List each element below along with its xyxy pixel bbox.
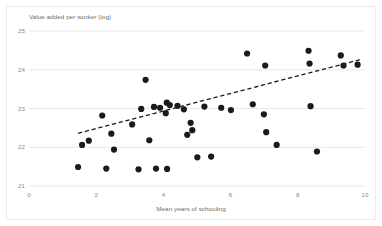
data-point bbox=[157, 105, 163, 111]
x-tick-label: 8 bbox=[290, 191, 306, 198]
x-tick-label: 2 bbox=[88, 191, 104, 198]
data-point bbox=[146, 137, 152, 143]
x-tick-label: 10 bbox=[357, 191, 373, 198]
data-point bbox=[174, 103, 180, 109]
data-point bbox=[138, 106, 144, 112]
data-point bbox=[340, 62, 346, 68]
data-point bbox=[184, 132, 190, 138]
y-tick-label: 24 bbox=[11, 66, 25, 73]
scatter-plot-canvas bbox=[0, 0, 382, 226]
data-point bbox=[129, 121, 135, 127]
data-point bbox=[189, 127, 195, 133]
data-point bbox=[262, 62, 268, 68]
data-point bbox=[79, 142, 85, 148]
data-point bbox=[142, 77, 148, 83]
data-point bbox=[305, 48, 311, 54]
data-point bbox=[355, 62, 361, 68]
data-point bbox=[99, 112, 105, 118]
x-tick-label: 4 bbox=[155, 191, 171, 198]
data-point bbox=[181, 106, 187, 112]
data-point bbox=[261, 111, 267, 117]
data-point bbox=[153, 165, 159, 171]
trend-line bbox=[78, 60, 360, 134]
data-point bbox=[314, 148, 320, 154]
data-point bbox=[167, 102, 173, 108]
data-point bbox=[250, 101, 256, 107]
y-tick-label: 25 bbox=[11, 27, 25, 34]
x-tick-label: 6 bbox=[223, 191, 239, 198]
data-point bbox=[263, 129, 269, 135]
data-point bbox=[244, 50, 250, 56]
y-tick-label: 22 bbox=[11, 143, 25, 150]
data-point bbox=[228, 107, 234, 113]
data-point bbox=[103, 165, 109, 171]
x-tick-label: 0 bbox=[21, 191, 37, 198]
data-point bbox=[208, 153, 214, 159]
data-point bbox=[188, 120, 194, 126]
data-point bbox=[111, 146, 117, 152]
data-point bbox=[338, 52, 344, 58]
data-point bbox=[163, 110, 169, 116]
data-point bbox=[307, 103, 313, 109]
data-point bbox=[201, 103, 207, 109]
data-point bbox=[135, 166, 141, 172]
data-point bbox=[306, 60, 312, 66]
data-point bbox=[194, 154, 200, 160]
data-point bbox=[274, 142, 280, 148]
data-point bbox=[86, 138, 92, 144]
data-point bbox=[75, 164, 81, 170]
x-axis-title: Mean years of schooling bbox=[0, 205, 382, 212]
data-point bbox=[108, 131, 114, 137]
chart-figure: Value added per worker (log) 2122232425 … bbox=[0, 0, 382, 226]
y-tick-label: 21 bbox=[11, 182, 25, 189]
y-tick-label: 23 bbox=[11, 105, 25, 112]
data-point bbox=[151, 104, 157, 110]
data-point bbox=[164, 166, 170, 172]
data-point bbox=[218, 105, 224, 111]
